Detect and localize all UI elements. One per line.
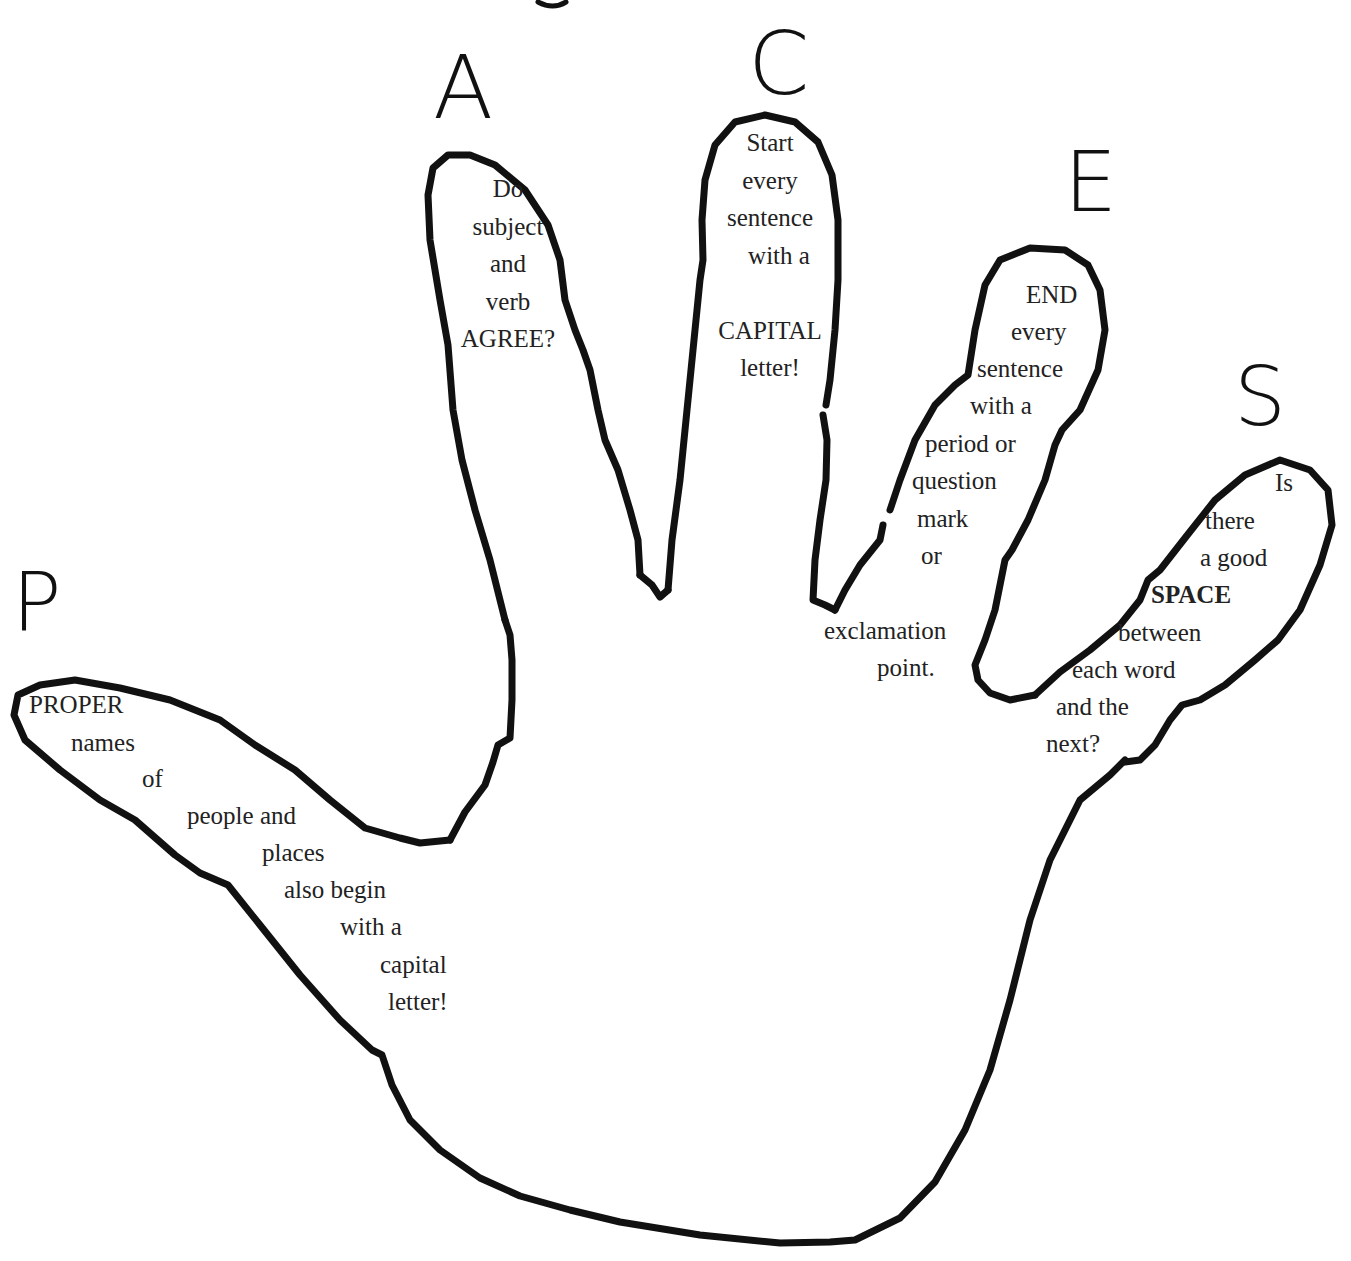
tip-line: subject: [448, 208, 568, 246]
tip-line: PROPER: [29, 686, 123, 724]
tip-line: Start: [705, 124, 835, 162]
tip-line: every: [1011, 313, 1067, 351]
tip-line: between: [1118, 614, 1201, 652]
tip-line: period or: [925, 425, 1016, 463]
tip-line: question: [912, 462, 997, 500]
tip-line: letter!: [388, 983, 448, 1021]
tip-capital: Start every sentence with a CAPITAL lett…: [705, 124, 835, 387]
letter-p: P: [12, 562, 61, 644]
tip-line: sentence: [705, 199, 835, 237]
tip-line: Do: [448, 170, 568, 208]
tip-line: and the: [1056, 688, 1129, 726]
tip-line: verb: [448, 283, 568, 321]
letter-e: E: [1064, 140, 1117, 224]
tip-line: with a: [970, 387, 1032, 425]
letter-a: A: [433, 44, 493, 132]
tip-line: letter!: [705, 349, 835, 387]
tip-line: END: [1026, 276, 1077, 314]
tip-line: every: [705, 162, 835, 200]
tip-agree: Do subject and verb AGREE?: [448, 170, 568, 358]
tip-line: CAPITAL: [705, 312, 835, 350]
tip-line: AGREE?: [448, 320, 568, 358]
tip-line-bold: SPACE: [1151, 576, 1231, 614]
tip-line: a good: [1200, 539, 1267, 577]
tip-line: each word: [1072, 651, 1175, 689]
tip-line: next?: [1046, 725, 1100, 763]
tip-line: point.: [877, 649, 935, 687]
tip-line: of: [142, 760, 163, 798]
tip-line: or: [921, 537, 942, 575]
tip-line: with a: [705, 237, 835, 275]
tip-line: sentence: [977, 350, 1063, 388]
capes-hand-diagram: P A C E S Do subject and verb AGREE? Sta…: [0, 0, 1351, 1261]
tip-line: exclamation: [824, 612, 946, 650]
tip-line: capital: [380, 946, 447, 984]
letter-c: C: [748, 20, 809, 108]
tip-line: and: [448, 245, 568, 283]
tip-line: names: [71, 724, 135, 762]
tip-line: mark: [917, 500, 968, 538]
tip-line: there: [1205, 502, 1255, 540]
tip-line: with a: [340, 908, 402, 946]
tip-line: people and: [187, 797, 296, 835]
tip-line: places: [262, 834, 324, 872]
letter-s: S: [1234, 356, 1286, 438]
tip-line: also begin: [284, 871, 386, 909]
tip-line: Is: [1275, 464, 1293, 502]
tip-line: [705, 274, 835, 312]
